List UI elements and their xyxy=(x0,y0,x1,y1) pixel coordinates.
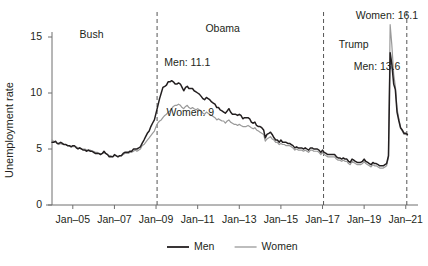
x-tick-label: Jan–05 xyxy=(52,214,94,225)
annotation-men-peak-2020: Men: 13.6 xyxy=(354,61,401,72)
x-tick-label: Jan–21 xyxy=(385,214,427,225)
unemployment-rate-chart: Unemployment rate 051015 Jan–05Jan–07Jan… xyxy=(0,0,428,266)
x-tick-label: Jan–17 xyxy=(302,214,344,225)
annotation-men-peak-2009: Men: 11.1 xyxy=(164,57,210,68)
axes-group xyxy=(46,32,418,209)
x-tick-label: Jan–15 xyxy=(260,214,302,225)
x-tick-label: Jan–13 xyxy=(218,214,260,225)
x-tick-label: Jan–19 xyxy=(343,214,385,225)
y-tick-label: 10 xyxy=(16,87,42,98)
annotation-bush: Bush xyxy=(52,29,132,40)
y-tick-label: 5 xyxy=(16,143,42,154)
annotation-women-peak-2009: Women: 9 xyxy=(166,107,214,118)
y-axis-title: Unemployment rate xyxy=(4,82,15,178)
legend-label-men: Men xyxy=(194,241,214,252)
x-tick-label: Jan–07 xyxy=(93,214,135,225)
x-tick-label: Jan–09 xyxy=(135,214,177,225)
legend-label-women: Women xyxy=(262,241,298,252)
y-tick-label: 15 xyxy=(16,31,42,42)
y-tick-label: 0 xyxy=(16,199,42,210)
annotation-obama: Obama xyxy=(183,23,263,34)
annotation-trump: Trump xyxy=(314,39,394,50)
annotation-women-peak-2020: Women: 16.1 xyxy=(356,10,418,21)
x-tick-label: Jan–11 xyxy=(177,214,219,225)
